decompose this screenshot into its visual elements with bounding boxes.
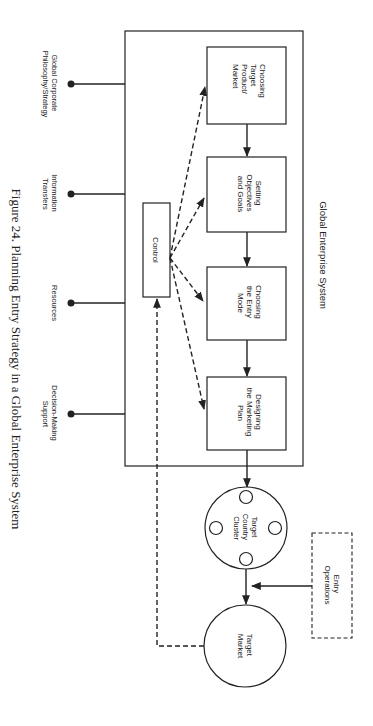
cluster-label: Target Country Cluster	[232, 514, 259, 542]
diagram-canvas: Global Enterprise System Global Corporat…	[0, 0, 373, 726]
input-dot-4	[68, 411, 75, 418]
figure-caption: Figure 24. Planning Entry Strategy in a …	[9, 189, 24, 530]
input-label-3: Resources	[50, 285, 59, 321]
cluster-country-circle	[240, 491, 253, 504]
system-label: Global Enterprise System	[318, 201, 329, 309]
input-dot-3	[68, 300, 75, 307]
cluster-country-circle	[269, 522, 282, 535]
input-dot-1	[68, 81, 75, 88]
control-label: Control	[151, 237, 160, 263]
input-dot-2	[68, 191, 75, 198]
target-market-label: Target Market	[236, 634, 254, 659]
input-label-4: Decision-Making Support	[41, 385, 59, 443]
cluster-country-circle	[210, 522, 223, 535]
input-label-1: Global Corporate Philosophy/Strategy	[41, 51, 59, 118]
input-labels: Global Corporate Philosophy/Strategy Inf…	[41, 51, 59, 443]
input-connectors	[68, 81, 126, 418]
input-label-2: Information Transfers	[41, 174, 59, 214]
cluster-country-circle	[240, 553, 253, 566]
